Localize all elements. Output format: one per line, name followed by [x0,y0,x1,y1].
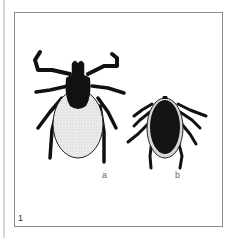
specimen-label-a: a [102,171,107,180]
tick-a-scutum [66,74,91,109]
tick-illustration [0,0,235,238]
tick-b-body [150,100,180,154]
specimen-label-b: b [175,171,180,180]
figure-number: 1 [18,214,23,223]
